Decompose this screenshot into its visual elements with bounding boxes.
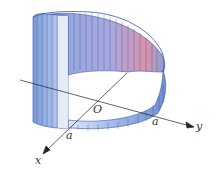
y-axis-arrow-icon <box>186 122 194 128</box>
seam-highlight <box>58 16 68 128</box>
x-axis-arrow-icon <box>43 146 50 154</box>
a-label-y: a <box>152 115 159 128</box>
x-axis-label: x <box>35 154 42 167</box>
a-label-x: a <box>66 129 73 142</box>
y-axis-label: y <box>195 120 203 133</box>
origin-label: O <box>93 103 102 116</box>
cylinder-surface-diagram: O x y a a <box>0 0 216 179</box>
